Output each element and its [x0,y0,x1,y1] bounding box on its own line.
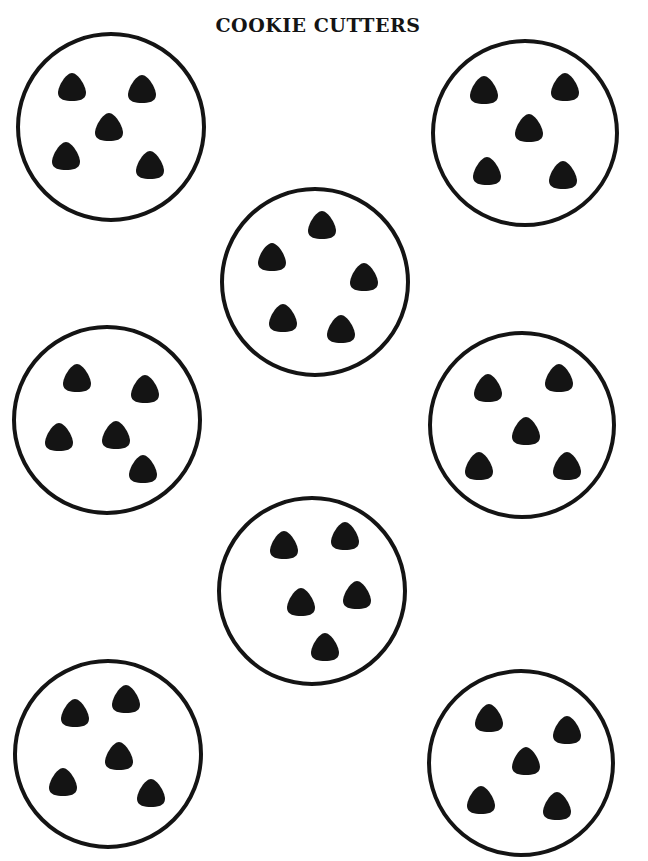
chocolate-chip-icon [105,742,133,770]
chocolate-chip-icon [112,685,140,713]
cookie-3 [222,189,408,375]
chocolate-chip-icon [131,375,159,403]
chocolate-chip-icon [467,786,495,814]
cookie-6 [219,498,405,684]
cookie-5 [430,333,614,517]
chocolate-chip-icon [470,76,498,104]
cookies-layer [14,34,617,855]
chocolate-chip-icon [137,779,165,807]
chocolate-chip-icon [331,522,359,550]
chocolate-chip-icon [49,768,77,796]
chocolate-chip-icon [45,423,73,451]
cookie-8 [429,671,613,855]
chocolate-chip-icon [350,263,378,291]
chocolate-chip-icon [465,452,493,480]
chocolate-chip-icon [128,75,156,103]
chocolate-chip-icon [61,699,89,727]
chocolate-chip-icon [308,211,336,239]
chocolate-chip-icon [270,531,298,559]
chocolate-chip-icon [474,374,502,402]
chocolate-chip-icon [311,633,339,661]
chocolate-chip-icon [512,747,540,775]
cookie-outline-icon [14,327,200,513]
chocolate-chip-icon [52,142,80,170]
chocolate-chip-icon [269,304,297,332]
cookie-1 [18,34,204,220]
cookie-2 [433,41,617,225]
chocolate-chip-icon [512,417,540,445]
chocolate-chip-icon [553,452,581,480]
chocolate-chip-icon [102,421,130,449]
chocolate-chip-icon [58,73,86,101]
chocolate-chip-icon [63,364,91,392]
cookie-4 [14,327,200,513]
chocolate-chip-icon [545,364,573,392]
chocolate-chip-icon [475,704,503,732]
chocolate-chip-icon [343,581,371,609]
chocolate-chip-icon [129,455,157,483]
chocolate-chip-icon [287,588,315,616]
cookie-sheet [0,0,648,861]
chocolate-chip-icon [515,114,543,142]
chocolate-chip-icon [327,315,355,343]
chocolate-chip-icon [258,243,286,271]
chocolate-chip-icon [473,157,501,185]
chocolate-chip-icon [551,73,579,101]
cookie-7 [15,661,201,847]
chocolate-chip-icon [543,792,571,820]
chocolate-chip-icon [136,151,164,179]
chocolate-chip-icon [549,161,577,189]
chocolate-chip-icon [553,716,581,744]
chocolate-chip-icon [95,113,123,141]
